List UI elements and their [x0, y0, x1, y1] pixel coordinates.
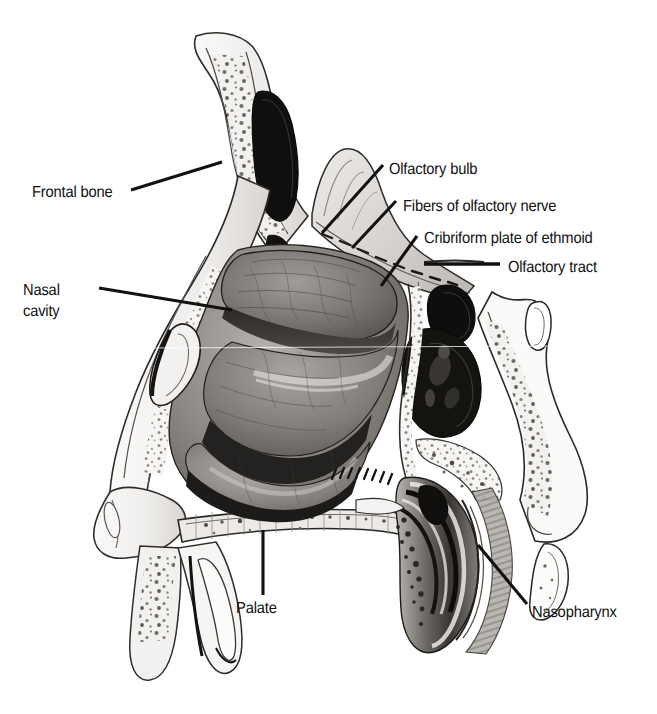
label-frontal-bone: Frontal bone [32, 182, 112, 203]
label-olfactory-tract: Olfactory tract [508, 257, 597, 278]
label-cribriform-plate-of-ethmoid: Cribriform plate of ethmoid [424, 228, 592, 249]
label-palate: Palate [236, 598, 277, 619]
label-nasal-cavity-line2: cavity [23, 301, 60, 322]
label-nasal-cavity-line1: Nasal [23, 280, 60, 301]
label-nasopharynx: Nasopharynx [532, 602, 617, 623]
label-olfactory-bulb: Olfactory bulb [389, 159, 477, 180]
label-fibers-of-olfactory-nerve: Fibers of olfactory nerve [403, 196, 556, 217]
label-nasal-cavity: Nasal cavity [23, 280, 60, 322]
